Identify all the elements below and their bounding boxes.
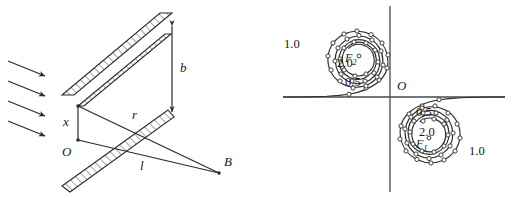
incident-arrow-4 — [8, 121, 45, 136]
tick-marker — [405, 141, 409, 145]
tick-marker — [408, 130, 412, 134]
tick-marker — [448, 144, 452, 148]
tick-marker — [453, 149, 457, 153]
label-x: x — [62, 114, 69, 129]
incident-arrow-1 — [8, 61, 45, 76]
tick-marker — [414, 152, 418, 156]
focus-label-upper-subscript: 2 — [352, 57, 357, 67]
tick-marker — [381, 63, 385, 67]
incident-arrow-3 — [8, 101, 45, 116]
lower-screen-hatched — [62, 110, 174, 192]
tick-marker — [433, 104, 437, 108]
tick-marker — [434, 111, 438, 115]
tick-marker — [364, 41, 368, 45]
tick-marker — [427, 156, 431, 160]
edge-point-marker — [76, 104, 80, 108]
tick-marker — [458, 136, 462, 140]
focus-point-upper — [357, 54, 361, 58]
focus-label-lower-F1: F1 — [415, 137, 428, 153]
tick-marker — [364, 84, 368, 88]
tick-marker — [326, 54, 330, 58]
tick-marker — [432, 117, 436, 121]
tick-marker — [370, 38, 374, 42]
tick-marker — [403, 127, 407, 131]
tick-marker — [336, 46, 340, 50]
tick-marker — [446, 133, 450, 137]
tick-marker — [398, 137, 402, 141]
cornu-label-upper-1-0: 1.0 — [284, 37, 300, 51]
tick-marker — [363, 79, 367, 83]
tick-marker — [385, 66, 389, 70]
tick-marker — [432, 150, 436, 154]
tick-marker — [404, 149, 408, 153]
observation-point-marker — [217, 171, 221, 175]
label-r: r — [132, 107, 138, 122]
tick-marker — [357, 33, 361, 37]
tick-marker — [415, 157, 419, 161]
tick-marker — [421, 119, 425, 123]
label-b: b — [180, 60, 187, 75]
cornu-origin-label: O — [397, 78, 407, 93]
tick-marker — [345, 37, 349, 41]
tick-marker — [338, 79, 342, 83]
tick-marker — [379, 49, 383, 53]
figure-canvas: b x r O l B O — [0, 0, 514, 198]
cornu-label-lower-1-0: 1.0 — [469, 144, 485, 158]
tick-marker — [409, 115, 413, 119]
tick-marker — [451, 131, 455, 135]
incident-wave-arrows — [8, 61, 45, 136]
incident-arrow-2 — [8, 81, 45, 96]
tick-marker — [329, 68, 333, 72]
upper-screen-hatched — [62, 13, 172, 95]
tick-marker — [373, 48, 377, 52]
tick-marker — [442, 158, 446, 162]
tick-marker — [442, 144, 446, 148]
focus-label-lower-subscript: 1 — [423, 143, 427, 153]
tick-marker — [380, 41, 384, 45]
tick-marker — [437, 98, 441, 102]
tick-marker — [372, 71, 376, 75]
tick-marker — [364, 72, 368, 76]
label-origin-O: O — [62, 144, 72, 159]
tick-marker — [339, 72, 343, 76]
tick-marker — [352, 40, 356, 44]
tick-marker — [342, 32, 346, 36]
tick-marker — [376, 60, 380, 64]
tick-marker — [375, 75, 379, 79]
tick-marker — [446, 111, 450, 115]
label-B: B — [224, 154, 232, 169]
tick-marker — [331, 41, 335, 45]
tick-marker — [369, 33, 373, 37]
cornu-label-upper-0-5: 0.5 — [345, 75, 361, 89]
tick-marker — [439, 153, 443, 157]
tick-marker — [412, 119, 416, 123]
tick-marker — [399, 124, 403, 128]
tick-marker — [342, 46, 346, 50]
cornu-label-lower-2-0: 2.0 — [419, 125, 435, 139]
right-panel-cornu-spiral: O — [257, 0, 514, 198]
label-l: l — [140, 158, 144, 173]
tick-marker — [455, 122, 459, 126]
tick-marker — [429, 161, 433, 165]
cornu-label-lower-0-5: 0.5 — [416, 105, 432, 119]
tick-marker — [347, 92, 351, 96]
origin-point-marker — [76, 138, 80, 142]
tick-marker — [386, 53, 390, 57]
cornu-label-upper-2-0: 2.0 — [337, 56, 353, 70]
tick-marker — [445, 118, 449, 122]
tick-marker — [411, 142, 415, 146]
tick-marker — [442, 122, 446, 126]
tick-marker — [355, 29, 359, 33]
left-panel-fresnel-slit: b x r O l B — [0, 0, 257, 198]
